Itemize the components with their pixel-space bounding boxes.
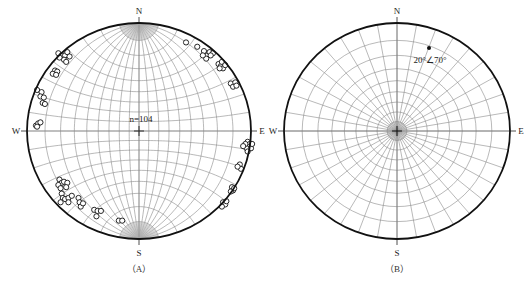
- pole-point: [69, 193, 74, 198]
- pole-point: [183, 40, 188, 45]
- pole-point: [34, 124, 39, 129]
- pole-point: [208, 53, 213, 58]
- attitude-annotation: 20°∠70°: [413, 55, 447, 65]
- west-label: W: [12, 126, 21, 136]
- pole-point: [235, 164, 240, 169]
- south-label: S: [394, 248, 399, 258]
- stereonet-panel-b: 20°∠70° N S W E （B）: [269, 6, 525, 274]
- pole-point: [234, 83, 239, 88]
- sample-count-label: n=104: [129, 114, 153, 124]
- south-label: S: [136, 248, 141, 258]
- pole-point: [54, 72, 59, 77]
- pole-point: [41, 95, 46, 100]
- pole-point: [64, 185, 69, 190]
- west-label: W: [269, 126, 278, 136]
- pole-point: [66, 200, 71, 205]
- pole-point: [94, 214, 99, 219]
- pole-point: [217, 66, 222, 71]
- pole-point: [58, 186, 63, 191]
- pole-point: [98, 208, 103, 213]
- panel-b-caption: （B）: [385, 264, 409, 274]
- plane-pole-point: [427, 46, 431, 50]
- east-label: E: [518, 126, 524, 136]
- stereonet-figure: N S W E n=104 （A） 20°∠70° N S W E （B）: [0, 0, 529, 287]
- pole-point: [80, 201, 85, 206]
- north-label: N: [136, 6, 143, 16]
- pole-point: [67, 54, 72, 59]
- pole-point: [64, 59, 69, 64]
- panel-a-caption: （A）: [127, 264, 152, 274]
- east-label: E: [259, 126, 265, 136]
- pole-point: [200, 53, 205, 58]
- pole-point: [120, 218, 125, 223]
- pole-point: [195, 44, 200, 49]
- pole-point: [241, 144, 246, 149]
- north-label: N: [394, 6, 401, 16]
- pole-point: [42, 101, 47, 106]
- pole-points: [33, 40, 254, 223]
- stereonet-panel-a: N S W E n=104 （A）: [12, 6, 266, 274]
